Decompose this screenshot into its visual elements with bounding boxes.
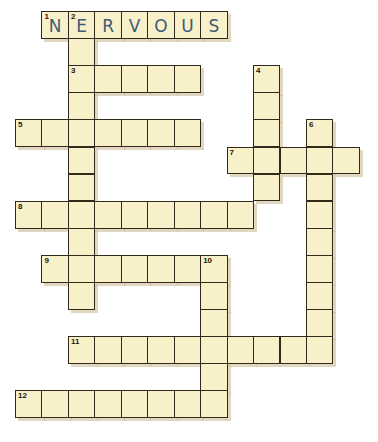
crossword-cell[interactable]: [306, 255, 333, 283]
crossword-cell[interactable]: 4: [253, 65, 280, 93]
crossword-cell[interactable]: [68, 228, 95, 256]
clue-number: 11: [71, 337, 79, 347]
clue-number: 7: [230, 148, 234, 158]
clue-number: 5: [18, 120, 22, 130]
crossword-cell[interactable]: [253, 92, 280, 120]
crossword-cell[interactable]: 5: [15, 119, 42, 147]
crossword-cell[interactable]: [94, 119, 121, 147]
cell-letter: O: [148, 16, 173, 36]
crossword-cell[interactable]: [227, 201, 254, 229]
cell-letter: N: [42, 16, 67, 36]
crossword-cell[interactable]: V: [121, 11, 148, 39]
crossword-cell[interactable]: [306, 309, 333, 337]
crossword-cell[interactable]: S: [200, 11, 227, 39]
crossword-cell[interactable]: 2E: [68, 11, 95, 39]
crossword-cell[interactable]: [68, 390, 95, 418]
crossword-cell[interactable]: [68, 255, 95, 283]
crossword-cell[interactable]: 11: [68, 336, 95, 364]
crossword-cell[interactable]: [306, 201, 333, 229]
crossword-cell[interactable]: [68, 38, 95, 66]
crossword-cell[interactable]: [332, 147, 359, 175]
crossword-cell[interactable]: [68, 147, 95, 175]
crossword-grid: 1N2ERVOUS3456789101112: [0, 0, 378, 442]
crossword-cell[interactable]: R: [94, 11, 121, 39]
crossword-cell[interactable]: [94, 255, 121, 283]
crossword-cell[interactable]: [306, 228, 333, 256]
clue-number: 3: [71, 66, 75, 76]
crossword-cell[interactable]: [174, 336, 201, 364]
clue-number: 10: [203, 256, 212, 266]
crossword-cell[interactable]: [94, 336, 121, 364]
crossword-cell[interactable]: [94, 201, 121, 229]
crossword-cell[interactable]: [253, 147, 280, 175]
crossword-cell[interactable]: [306, 282, 333, 310]
crossword-cell[interactable]: [94, 390, 121, 418]
crossword-cell[interactable]: [147, 255, 174, 283]
crossword-cell[interactable]: 12: [15, 390, 42, 418]
crossword-cell[interactable]: [174, 65, 201, 93]
crossword-cell[interactable]: 3: [68, 65, 95, 93]
crossword-cell[interactable]: [253, 336, 280, 364]
crossword-cell[interactable]: [147, 336, 174, 364]
crossword-cell[interactable]: [121, 336, 148, 364]
crossword-cell[interactable]: [147, 201, 174, 229]
crossword-cell[interactable]: 6: [306, 119, 333, 147]
crossword-cell[interactable]: 9: [41, 255, 68, 283]
cell-letter: V: [122, 16, 147, 36]
crossword-cell[interactable]: 8: [15, 201, 42, 229]
crossword-cell[interactable]: [68, 201, 95, 229]
crossword-cell[interactable]: [174, 119, 201, 147]
crossword-cell[interactable]: [280, 147, 307, 175]
crossword-cell[interactable]: U: [174, 11, 201, 39]
clue-number: 9: [44, 256, 48, 266]
cell-letter: S: [201, 16, 226, 36]
crossword-cell[interactable]: [121, 255, 148, 283]
crossword-cell[interactable]: [147, 390, 174, 418]
crossword-cell[interactable]: [306, 336, 333, 364]
crossword-cell[interactable]: [41, 119, 68, 147]
crossword-cell[interactable]: [174, 255, 201, 283]
cell-letter: E: [69, 16, 94, 36]
crossword-cell[interactable]: [200, 309, 227, 337]
crossword-cell[interactable]: 7: [227, 147, 254, 175]
crossword-cell[interactable]: [174, 201, 201, 229]
crossword-cell[interactable]: [121, 119, 148, 147]
crossword-cell[interactable]: [41, 201, 68, 229]
crossword-cell[interactable]: [68, 92, 95, 120]
cell-letter: R: [95, 16, 120, 36]
crossword-cell[interactable]: O: [147, 11, 174, 39]
crossword-cell[interactable]: 10: [200, 255, 227, 283]
crossword-cell[interactable]: [280, 336, 307, 364]
crossword-cell[interactable]: [68, 174, 95, 202]
crossword-cell[interactable]: [200, 201, 227, 229]
clue-number: 6: [309, 120, 313, 130]
crossword-cell[interactable]: [200, 336, 227, 364]
crossword-cell[interactable]: [253, 119, 280, 147]
crossword-cell[interactable]: 1N: [41, 11, 68, 39]
crossword-cell[interactable]: [147, 119, 174, 147]
crossword-cell[interactable]: [174, 390, 201, 418]
crossword-cell[interactable]: [68, 119, 95, 147]
clue-number: 12: [18, 391, 27, 401]
crossword-cell[interactable]: [94, 65, 121, 93]
crossword-cell[interactable]: [200, 363, 227, 391]
crossword-cell[interactable]: [121, 390, 148, 418]
crossword-cell[interactable]: [227, 336, 254, 364]
crossword-cell[interactable]: [121, 201, 148, 229]
crossword-cell[interactable]: [121, 65, 148, 93]
crossword-cell[interactable]: [147, 65, 174, 93]
crossword-cell[interactable]: [68, 282, 95, 310]
crossword-cell[interactable]: [306, 147, 333, 175]
crossword-cell[interactable]: [253, 174, 280, 202]
crossword-cell[interactable]: [200, 282, 227, 310]
cell-letter: U: [175, 16, 200, 36]
crossword-cell[interactable]: [200, 390, 227, 418]
clue-number: 4: [256, 66, 260, 76]
crossword-cell[interactable]: [41, 390, 68, 418]
crossword-cell[interactable]: [306, 174, 333, 202]
clue-number: 8: [18, 202, 22, 212]
